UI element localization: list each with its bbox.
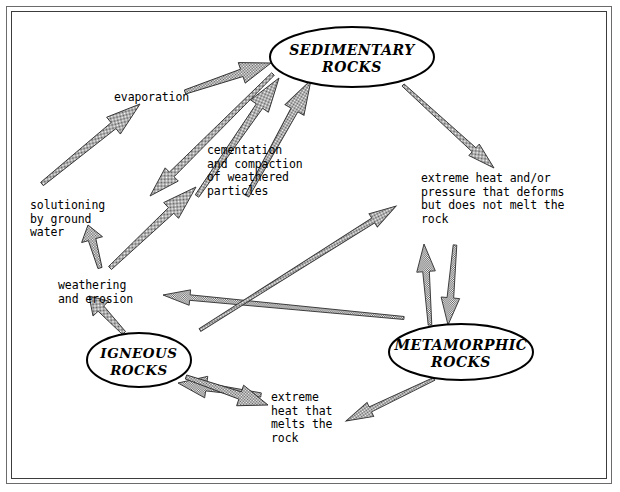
node-label-line2: ROCKS xyxy=(430,354,491,370)
arrow-sedimentary-to-heatpressure xyxy=(398,79,499,173)
arrow-metamorphic-to-heatmelts xyxy=(343,372,438,428)
arrow-heatpressure-to-metamorphic xyxy=(439,244,465,326)
node-igneous[interactable]: IGNEOUSROCKS xyxy=(87,333,191,387)
node-sedimentary[interactable]: SEDIMENTARYROCKS xyxy=(270,27,434,87)
process-label-cementation: cementation and compaction of weathered … xyxy=(207,144,303,198)
process-label-evaporation: evaporation xyxy=(114,91,189,105)
node-label-line1: IGNEOUS xyxy=(99,345,177,361)
rock-cycle-figure: SEDIMENTARYROCKSMETAMORPHICROCKSIGNEOUSR… xyxy=(0,0,620,492)
node-label-line1: SEDIMENTARY xyxy=(289,42,416,58)
arrow-metamorphic-to-heatpressure xyxy=(415,243,440,325)
arrow-metamorphic-to-weathering xyxy=(162,287,404,325)
node-label-line1: METAMORPHIC xyxy=(394,337,528,353)
process-label-extreme-heat-pressure: extreme heat and/or pressure that deform… xyxy=(421,172,564,226)
node-metamorphic[interactable]: METAMORPHICROCKS xyxy=(389,324,533,380)
process-label-solutioning: solutioning by ground water xyxy=(30,199,105,240)
process-label-weathering: weathering and erosion xyxy=(58,279,133,306)
arrow-solutioning-to-evaporation xyxy=(35,96,147,193)
node-label-line2: ROCKS xyxy=(321,59,382,75)
process-label-extreme-heat-melts: extreme heat that melts the rock xyxy=(271,391,332,445)
node-label-line2: ROCKS xyxy=(109,362,168,378)
